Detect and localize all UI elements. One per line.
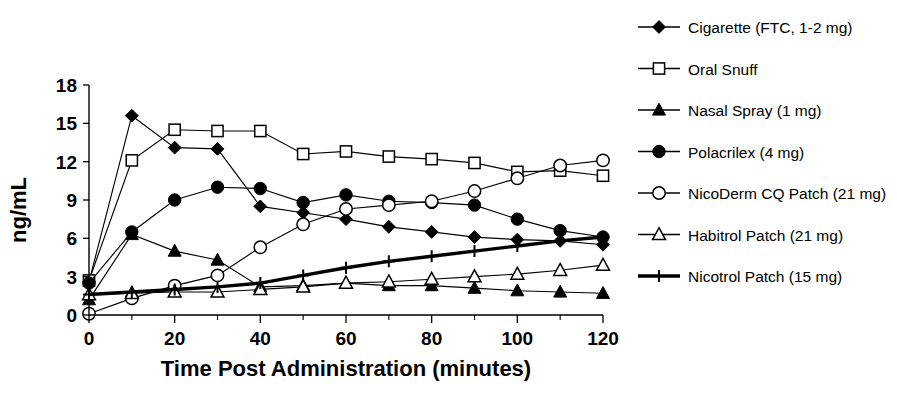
y-tick-label: 12 <box>56 152 77 173</box>
x-tick-label: 40 <box>250 328 271 349</box>
data-point-filled-circle <box>511 213 523 225</box>
x-tick-label: 100 <box>501 328 533 349</box>
data-point-filled-circle <box>211 181 223 193</box>
y-tick-label: 18 <box>56 75 77 96</box>
y-axis-title: ng/mL <box>6 177 31 243</box>
chart-page: 0369121518020406080100120 Cigarette (FTC… <box>0 0 897 403</box>
legend-label: Cigarette (FTC, 1-2 mg) <box>688 19 853 36</box>
data-point-open-square <box>653 63 664 74</box>
data-point-open-circle <box>211 269 223 281</box>
x-axis-title: Time Post Administration (minutes) <box>161 356 531 381</box>
data-point-open-circle <box>254 241 266 253</box>
legend-label: Polacrilex (4 mg) <box>688 144 804 161</box>
data-point-filled-circle <box>653 145 665 157</box>
data-point-filled-circle <box>297 196 309 208</box>
legend-label: Oral Snuff <box>688 61 758 78</box>
data-point-open-square <box>255 125 266 136</box>
legend-label: NicoDerm CQ Patch (21 mg) <box>688 185 886 202</box>
x-tick-label: 80 <box>421 328 442 349</box>
data-point-filled-circle <box>468 199 480 211</box>
data-point-filled-circle <box>254 182 266 194</box>
legend-label: Nasal Spray (1 mg) <box>688 102 822 119</box>
x-tick-label: 0 <box>84 328 95 349</box>
data-point-filled-circle <box>340 189 352 201</box>
y-tick-label: 9 <box>66 190 77 211</box>
legend-label: Nicotrol Patch (15 mg) <box>688 268 842 285</box>
x-tick-label: 20 <box>164 328 185 349</box>
data-point-open-square <box>426 154 437 165</box>
data-point-open-circle <box>340 203 352 215</box>
data-point-open-circle <box>425 195 437 207</box>
data-point-open-circle <box>597 154 609 166</box>
data-point-open-square <box>383 151 394 162</box>
x-tick-label: 120 <box>587 328 619 349</box>
data-point-filled-circle <box>168 194 180 206</box>
data-point-open-circle <box>468 185 480 197</box>
data-point-open-square <box>597 170 608 181</box>
data-point-open-circle <box>653 187 665 199</box>
data-point-open-circle <box>554 159 566 171</box>
data-point-open-square <box>169 124 180 135</box>
nicotine-pharmacokinetics-chart: 0369121518020406080100120 Cigarette (FTC… <box>0 0 897 403</box>
y-tick-label: 6 <box>66 228 77 249</box>
data-point-open-square <box>126 155 137 166</box>
y-tick-label: 3 <box>66 267 77 288</box>
data-point-open-square <box>340 146 351 157</box>
legend-label: Habitrol Patch (21 mg) <box>688 227 843 244</box>
data-point-open-square <box>298 148 309 159</box>
x-tick-label: 60 <box>335 328 356 349</box>
y-tick-label: 15 <box>56 113 78 134</box>
data-point-filled-circle <box>126 226 138 238</box>
data-point-open-square <box>469 157 480 168</box>
data-point-open-square <box>212 125 223 136</box>
data-point-open-circle <box>297 218 309 230</box>
data-point-open-circle <box>383 199 395 211</box>
y-tick-label: 0 <box>66 305 77 326</box>
data-point-open-circle <box>511 172 523 184</box>
